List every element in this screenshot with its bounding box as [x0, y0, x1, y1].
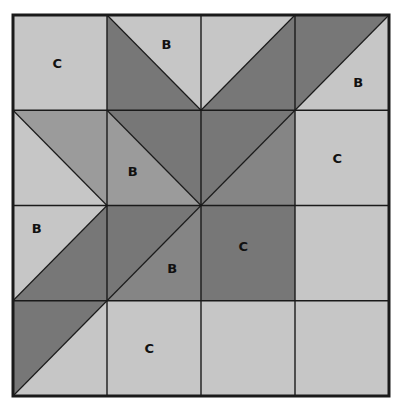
square-patch — [295, 301, 389, 396]
quilt-block-diagram: CBBBCBBCC — [0, 0, 396, 412]
square-patch — [295, 206, 389, 301]
square-patch — [201, 301, 295, 396]
patch-label-c: C — [145, 341, 155, 356]
patch-label-b: B — [128, 164, 138, 179]
patch-label-c: C — [52, 56, 62, 71]
patch-label-b: B — [167, 261, 177, 276]
patch-label-b: B — [353, 75, 363, 90]
patch-label-b: B — [162, 37, 172, 52]
patch-label-c: C — [239, 239, 249, 254]
patch-label-c: C — [333, 151, 343, 166]
patch-label-b: B — [32, 221, 42, 236]
